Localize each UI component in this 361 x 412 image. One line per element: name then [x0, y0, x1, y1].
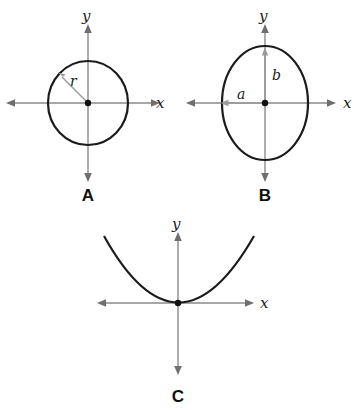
panel-b-y-axis-arrow-up [261, 24, 269, 33]
panel-b-x-axis-arrow-right [327, 99, 336, 107]
figure-container: x y r A [0, 0, 361, 412]
panel-a-x-axis-arrow-left [6, 99, 15, 107]
conic-sections-figure: x y r A [0, 0, 361, 412]
panel-a: x y r A [6, 7, 165, 205]
panel-c-caption: C [172, 387, 184, 406]
panel-a-y-axis-arrow-down [84, 173, 92, 182]
panel-b-origin-dot [262, 100, 268, 106]
panel-a-x-axis-label: x [156, 94, 165, 112]
panel-b-b-measure [262, 48, 268, 104]
panel-a-y-axis-label: y [81, 7, 91, 25]
panel-c-x-axis-arrow-right [245, 299, 254, 307]
panel-c-y-axis-arrow-up [174, 232, 182, 241]
panel-c-x-axis-arrow-left [97, 299, 106, 307]
panel-a-y-axis-arrow-up [84, 24, 92, 33]
panel-b-x-axis-arrow-left [186, 99, 195, 107]
panel-c-y-axis-arrow-down [174, 366, 182, 375]
panel-c-y-axis-label: y [171, 215, 181, 233]
panel-b-a-label: a [237, 86, 245, 102]
panel-b: x y a b B [186, 7, 352, 205]
panel-b-caption: B [259, 186, 271, 205]
panel-b-x-axis-label: x [343, 94, 352, 112]
panel-b-b-label: b [272, 67, 281, 83]
panel-c: x y C [97, 215, 269, 406]
panel-b-y-axis-label: y [258, 7, 268, 25]
panel-b-b-arrowhead [262, 48, 268, 56]
panel-a-radius-label: r [70, 73, 78, 89]
panel-c-parabola-curve [104, 236, 254, 303]
panel-a-x-axis [6, 99, 160, 107]
panel-c-x-axis-label: x [260, 294, 269, 312]
panel-c-origin-dot [175, 300, 181, 306]
panel-a-caption: A [82, 186, 94, 205]
panel-b-y-axis-arrow-down [261, 173, 269, 182]
panel-a-origin-dot [85, 100, 91, 106]
